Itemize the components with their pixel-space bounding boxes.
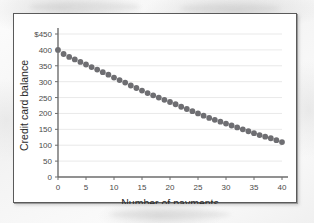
data-point: [106, 72, 112, 78]
data-point: [139, 88, 145, 94]
scanned-figure-page: 050100150200250300350400$450051015202530…: [0, 0, 314, 223]
data-point: [61, 51, 67, 57]
data-point: [268, 135, 274, 141]
data-point: [94, 67, 100, 73]
scatter-plot: 050100150200250300350400$450051015202530…: [14, 14, 298, 204]
x-axis-tick-label: 0: [56, 183, 61, 192]
paper-texture-streak: [110, 210, 230, 219]
y-axis-title: Credit card balance: [18, 60, 30, 151]
x-axis-tick-label: 10: [110, 183, 119, 192]
y-axis-tick-label: 300: [39, 78, 53, 87]
x-axis-tick-label: 5: [84, 183, 89, 192]
data-point: [78, 59, 84, 65]
data-point: [223, 121, 229, 127]
x-axis-title: Number of payments: [121, 197, 218, 204]
y-axis-tick-label: 50: [43, 157, 52, 166]
data-point: [173, 101, 179, 107]
data-point: [184, 106, 190, 112]
y-axis-tick-label: 250: [39, 94, 53, 103]
y-axis-tick-label: 150: [39, 125, 53, 134]
data-point: [100, 69, 106, 75]
paper-texture-streak: [30, 2, 140, 12]
data-point: [234, 125, 240, 131]
y-axis-tick-label: $450: [34, 30, 52, 39]
y-axis-tick-label: 0: [48, 173, 53, 182]
x-axis-tick-label: 25: [194, 183, 203, 192]
y-axis-tick-label: 350: [39, 62, 53, 71]
data-point: [72, 57, 78, 63]
data-point: [262, 134, 268, 140]
data-point: [128, 83, 134, 89]
y-axis-tick-label: 200: [39, 109, 53, 118]
data-point: [156, 95, 162, 101]
data-point: [195, 111, 201, 117]
paper-texture-streak: [180, 4, 280, 13]
data-point: [117, 77, 123, 83]
x-axis-tick-label: 35: [250, 183, 259, 192]
data-point: [178, 104, 184, 110]
data-series: [55, 47, 285, 145]
data-point: [240, 126, 246, 132]
data-point: [218, 119, 224, 125]
data-point: [279, 139, 285, 145]
data-point: [150, 92, 156, 98]
x-axis-tick-label: 20: [166, 183, 175, 192]
y-axis-tick-label: 400: [39, 46, 53, 55]
data-point: [206, 115, 212, 121]
data-point: [122, 80, 128, 86]
data-point: [145, 90, 151, 96]
chart-frame: 050100150200250300350400$450051015202530…: [13, 13, 297, 203]
data-point: [66, 54, 72, 60]
x-axis-tick-label: 15: [138, 183, 147, 192]
data-point: [83, 62, 89, 68]
chart-canvas: 050100150200250300350400$450051015202530…: [14, 14, 298, 204]
data-point: [134, 85, 140, 91]
x-axis-tick-label: 30: [222, 183, 231, 192]
data-point: [55, 47, 61, 53]
data-point: [162, 97, 168, 103]
data-point: [212, 117, 218, 123]
data-point: [229, 123, 235, 129]
x-axis-tick-label: 40: [278, 183, 287, 192]
y-axis-tick-label: 100: [39, 141, 53, 150]
data-point: [89, 64, 95, 70]
data-point: [246, 128, 252, 134]
data-point: [167, 99, 173, 105]
data-point: [190, 108, 196, 114]
data-point: [201, 113, 207, 119]
data-point: [274, 137, 280, 143]
data-point: [251, 130, 257, 136]
data-point: [257, 132, 263, 138]
data-point: [111, 75, 117, 81]
